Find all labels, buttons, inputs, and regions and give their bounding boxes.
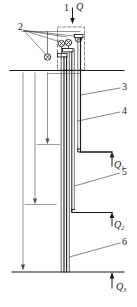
callout-label-4: 4: [122, 106, 127, 116]
outlet-1-branch: [78, 149, 115, 166]
outlet-3-bottom-branch: [12, 272, 124, 288]
inlet-flow-arrow: [70, 8, 75, 24]
outlet-3-flow-label: Q3: [116, 282, 126, 292]
concentric-tubing-strings: [61, 49, 74, 272]
valve-symbol-a: [44, 54, 50, 60]
callout-leader-lines: [70, 88, 120, 257]
well-schematic-diagram: 1 Q 2 3 4 Q1 5 Q2 6 Q3: [0, 0, 137, 307]
depth-dimension-lines: [21, 73, 80, 271]
callout-label-5: 5: [122, 167, 127, 177]
callout-label-1: 1: [64, 3, 69, 13]
valve-symbol-c: [65, 39, 71, 45]
valve-symbol-b: [58, 40, 64, 46]
callout-label-3: 3: [122, 82, 127, 92]
schematic-drawing: [0, 0, 137, 307]
wellhead-hanger-spools: [22, 32, 83, 57]
callout-label-2: 2: [18, 22, 23, 32]
outer-casing-string-3: [78, 38, 81, 152]
callout-label-6: 6: [122, 237, 127, 247]
outlet-2-branch: [72, 210, 115, 227]
inlet-flow-label-Q: Q: [76, 2, 83, 12]
outlet-2-flow-label: Q2: [114, 220, 124, 230]
